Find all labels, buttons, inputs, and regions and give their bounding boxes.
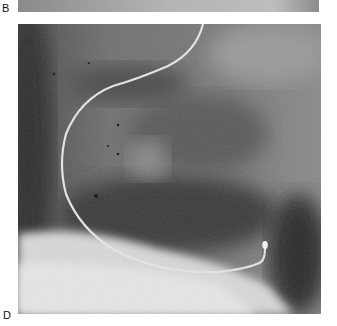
guidewire-tip — [262, 241, 268, 249]
panel-b-image-strip — [18, 0, 319, 12]
panel-label-d: D — [3, 309, 11, 321]
panel-d-radiograph — [18, 24, 321, 314]
panel-label-b: B — [2, 2, 9, 14]
